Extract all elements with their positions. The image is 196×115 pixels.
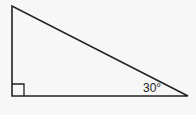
right-triangle: [12, 6, 188, 96]
triangle-diagram: 30°: [0, 0, 196, 115]
angle-label-30: 30°: [143, 81, 161, 95]
right-angle-marker: [12, 84, 24, 96]
